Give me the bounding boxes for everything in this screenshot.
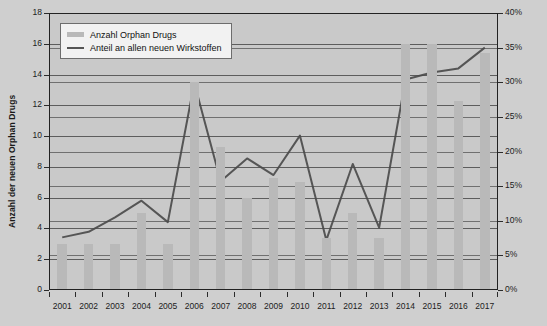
- legend-label-bars: Anzahl Orphan Drugs: [90, 30, 177, 40]
- y-tick-left-2: 2: [37, 254, 42, 263]
- line-swatch-icon: [67, 47, 84, 49]
- x-tickmark: [287, 292, 288, 297]
- y-tick-left-10: 10: [33, 131, 42, 140]
- x-tick-2017: 2017: [475, 301, 494, 311]
- bar-swatch-icon: [67, 32, 84, 37]
- x-tickmark: [155, 292, 156, 297]
- y-tick-left-6: 6: [37, 193, 42, 202]
- x-tickmark: [181, 292, 182, 297]
- y-tickmark-right: [498, 152, 503, 153]
- x-tickmark: [234, 292, 235, 297]
- x-tickmark: [75, 292, 76, 297]
- x-tick-2013: 2013: [370, 301, 389, 311]
- chart-legend: Anzahl Orphan Drugs Anteil an allen neue…: [60, 23, 232, 59]
- bar-2005: [163, 244, 173, 290]
- y-tickmark-right: [498, 82, 503, 83]
- x-tick-2011: 2011: [317, 301, 335, 311]
- x-tickmark: [260, 292, 261, 297]
- x-tickmark: [472, 292, 473, 297]
- bar-2006: [190, 82, 200, 290]
- x-tickmark: [102, 292, 103, 297]
- y-tickmark-left: [44, 259, 49, 260]
- x-tick-2009: 2009: [264, 301, 283, 311]
- y-tickmark-left: [44, 228, 49, 229]
- y-tickmark-left: [44, 136, 49, 137]
- bar-2010: [295, 182, 305, 290]
- x-tickmark: [340, 292, 341, 297]
- bar-2016: [454, 101, 464, 290]
- y-tick-right-35%: 35%: [505, 43, 522, 52]
- y-axis-left: 024681012141618: [16, 0, 42, 326]
- y-tickmark-right: [498, 13, 503, 14]
- x-tick-2010: 2010: [290, 301, 309, 311]
- bar-2008: [242, 198, 252, 290]
- x-tick-2003: 2003: [106, 301, 125, 311]
- bar-2015: [427, 44, 437, 290]
- y-tickmark-left: [44, 105, 49, 106]
- y-tick-right-25%: 25%: [505, 112, 522, 121]
- x-tick-2007: 2007: [211, 301, 230, 311]
- x-tickmark: [419, 292, 420, 297]
- x-axis: 2001200220032004200520062007200820092010…: [49, 292, 498, 322]
- x-tick-2005: 2005: [158, 301, 177, 311]
- x-tick-2012: 2012: [343, 301, 362, 311]
- y-tick-right-15%: 15%: [505, 181, 522, 190]
- bar-2009: [269, 178, 279, 290]
- chart-root: Anzahl der neuen Orphan Drugs Anteil von…: [0, 0, 547, 326]
- y-tickmark-left: [44, 167, 49, 168]
- bar-2014: [401, 44, 411, 290]
- y-tickmark-right: [498, 117, 503, 118]
- y-tickmark-right: [498, 48, 503, 49]
- x-tickmark: [207, 292, 208, 297]
- x-tick-2001: 2001: [53, 301, 72, 311]
- y-tick-left-4: 4: [37, 223, 42, 232]
- y-tick-left-18: 18: [33, 8, 42, 17]
- x-tickmark: [497, 292, 498, 297]
- x-tick-2016: 2016: [449, 301, 468, 311]
- y-tickmark-right: [498, 255, 503, 256]
- y-tick-left-14: 14: [33, 70, 42, 79]
- bar-2004: [137, 213, 147, 290]
- legend-item-bars: Anzahl Orphan Drugs: [67, 28, 221, 41]
- bar-2003: [110, 244, 120, 290]
- x-tickmark: [445, 292, 446, 297]
- bar-2002: [84, 244, 94, 290]
- x-tick-2004: 2004: [132, 301, 151, 311]
- y-tick-right-10%: 10%: [505, 216, 522, 225]
- y-tickmark-left: [44, 13, 49, 14]
- y-tick-right-20%: 20%: [505, 147, 522, 156]
- x-tickmark: [49, 292, 50, 297]
- x-tickmark: [366, 292, 367, 297]
- bar-2007: [216, 147, 226, 290]
- bar-2012: [348, 213, 358, 290]
- x-tick-2002: 2002: [79, 301, 98, 311]
- x-tick-2015: 2015: [423, 301, 442, 311]
- y-tickmark-right: [498, 290, 503, 291]
- y-tickmark-left: [44, 75, 49, 76]
- bar-2013: [374, 238, 384, 290]
- y-tick-right-0%: 0%: [505, 285, 517, 294]
- bar-2017: [480, 53, 490, 290]
- legend-label-line: Anteil an allen neuen Wirkstoffen: [90, 43, 221, 53]
- x-tickmark: [128, 292, 129, 297]
- y-tickmark-left: [44, 44, 49, 45]
- y-tick-right-30%: 30%: [505, 77, 522, 86]
- y-tickmark-left: [44, 198, 49, 199]
- bar-2011: [322, 238, 332, 290]
- x-tick-2006: 2006: [185, 301, 204, 311]
- x-tickmark: [313, 292, 314, 297]
- bar-2001: [57, 244, 67, 290]
- legend-item-line: Anteil an allen neuen Wirkstoffen: [67, 41, 221, 54]
- y-tick-left-8: 8: [37, 162, 42, 171]
- y-tick-right-5%: 5%: [505, 250, 517, 259]
- y-tick-right-40%: 40%: [505, 8, 522, 17]
- y-tickmark-right: [498, 221, 503, 222]
- y-tick-left-12: 12: [33, 100, 42, 109]
- x-tick-2014: 2014: [396, 301, 415, 311]
- y-tick-left-0: 0: [37, 285, 42, 294]
- y-tick-left-16: 16: [33, 39, 42, 48]
- x-tickmark: [392, 292, 393, 297]
- y-tickmark-right: [498, 186, 503, 187]
- y-tickmark-left: [44, 290, 49, 291]
- x-tick-2008: 2008: [238, 301, 257, 311]
